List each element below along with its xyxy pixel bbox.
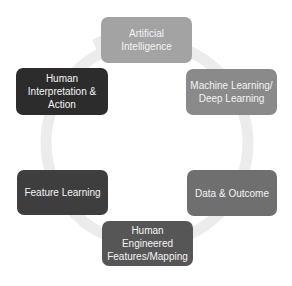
node-label-line: Human <box>28 72 96 85</box>
node-human-interpretation-action: Human Interpretation & Action <box>16 68 108 115</box>
node-label-line: Machine Learning/ <box>190 79 272 92</box>
node-label-line: Action <box>28 98 96 111</box>
node-machine-learning: Machine Learning/ Deep Learning <box>186 69 277 115</box>
node-label-line: Intelligence <box>121 40 172 53</box>
node-label-line: Interpretation & <box>28 85 96 98</box>
node-label-line: Artificial <box>121 27 172 40</box>
node-feature-learning: Feature Learning <box>17 170 108 215</box>
node-label-line: Human Engineered <box>106 224 189 250</box>
node-label-line: Features/Mapping <box>106 250 189 263</box>
node-label-line: Deep Learning <box>190 92 272 105</box>
node-data-outcome: Data & Outcome <box>187 170 277 216</box>
node-label-line: Data & Outcome <box>195 187 269 200</box>
node-human-engineered-features: Human Engineered Features/Mapping <box>102 221 193 266</box>
node-label-line: Feature Learning <box>24 186 100 199</box>
node-artificial-intelligence: Artificial Intelligence <box>101 17 192 63</box>
